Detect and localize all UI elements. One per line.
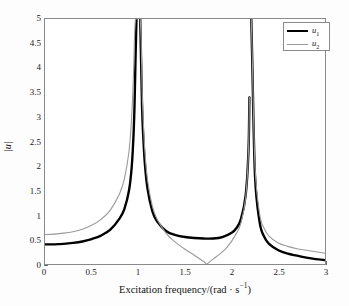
series-line-u2	[251, 19, 325, 253]
y-axis-label: |u|	[2, 142, 13, 153]
y-tick-label: 2	[0, 161, 41, 171]
legend-line-swatch-u1	[287, 30, 308, 32]
y-tick-label: 0.5	[0, 235, 41, 245]
x-tick-label: 1.5	[170, 267, 200, 277]
chart-legend: u1 u2	[283, 22, 330, 51]
curve-svg	[45, 19, 325, 264]
legend-label-u2-sub: 2	[316, 43, 319, 49]
y-tick-label: 1.5	[0, 186, 41, 196]
y-tick-label: 3.5	[0, 87, 41, 97]
x-tick-label: 0	[29, 267, 59, 277]
legend-entry-u2: u2	[284, 37, 329, 51]
plot-area	[44, 18, 326, 265]
y-tick-label: 4	[0, 62, 41, 72]
legend-entry-u1: u1	[284, 24, 329, 38]
series-line-u2	[45, 19, 136, 235]
legend-line-swatch-u2	[287, 44, 308, 45]
legend-label-u1-sub: 1	[316, 30, 319, 36]
x-tick-label: 0.5	[76, 267, 106, 277]
x-tick-label: 2.5	[264, 267, 294, 277]
y-tick-mark	[44, 265, 48, 266]
y-tick-label: 1	[0, 211, 41, 221]
x-tick-label: 3	[311, 267, 341, 277]
x-axis-label-prefix: Excitation frequency/(rad · s	[119, 284, 239, 295]
x-tick-label: 2	[217, 267, 247, 277]
y-tick-label: 5	[0, 13, 41, 23]
x-axis-label-suffix: )	[247, 284, 251, 295]
y-tick-label: 4.5	[0, 38, 41, 48]
figure-canvas: 00.511.522.533.544.55 00.511.522.53 |u| …	[0, 0, 349, 306]
x-tick-label: 1	[123, 267, 153, 277]
legend-label-u1: u1	[312, 26, 319, 37]
series-line-u2	[140, 19, 249, 264]
series-line-u1	[140, 19, 249, 239]
legend-label-u2: u2	[312, 39, 319, 50]
x-tick-mark	[326, 261, 327, 265]
x-axis-label: Excitation frequency/(rad · s−1)	[44, 281, 326, 295]
y-tick-label: 3	[0, 112, 41, 122]
series-line-u1	[45, 19, 136, 244]
